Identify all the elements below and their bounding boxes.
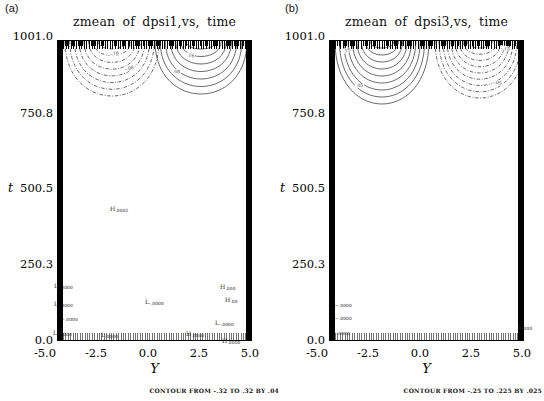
x-axis-label: Y (329, 361, 524, 376)
y-tick-label: 1001.0 (272, 29, 325, 43)
right-wall (246, 40, 252, 341)
figure: (a) zmean of dpsi1,vs, time 1001.0750.85… (0, 0, 544, 401)
bottom-boundary-hatching (335, 333, 518, 340)
right-wall (518, 40, 524, 341)
panel-b-label: (b) (285, 2, 298, 14)
y-tick-label: 0.0 (0, 333, 53, 347)
top-boundary-hatching (335, 41, 518, 49)
x-axis-label: Y (57, 361, 252, 376)
y-tick-label: 750.8 (272, 106, 325, 120)
plot-title-a: zmean of dpsi1,vs, time (47, 14, 262, 29)
panel-b: (b) zmean of dpsi3,vs, time 1001.0750.85… (272, 0, 544, 401)
x-tick-label: 5.0 (230, 346, 270, 360)
contour-range-caption-a: CONTOUR FROM -.32 TO .32 BY .04 (149, 387, 279, 394)
contour-range-caption-b: CONTOUR FROM -.25 TO .225 BY .025 (404, 387, 542, 394)
left-wall (329, 40, 335, 341)
y-tick-label: 750.8 (0, 106, 53, 120)
y-tick-label: 250.3 (272, 257, 325, 271)
x-tick-label: 5.0 (502, 346, 542, 360)
plot-title-b: zmean of dpsi3,vs, time (319, 14, 534, 29)
y-tick-label: 250.3 (0, 257, 53, 271)
x-tick-label: 2.5 (179, 346, 219, 360)
bottom-boundary-hatching (63, 333, 246, 340)
x-tick-label: -5.0 (297, 346, 337, 360)
plot-area-a (57, 40, 252, 341)
y-axis-label: t (280, 180, 285, 195)
x-tick-label: -2.5 (348, 346, 388, 360)
x-tick-label: 0.0 (400, 346, 440, 360)
panel-a-label: (a) (5, 2, 18, 14)
plot-area-b (329, 40, 524, 341)
x-tick-label: 0.0 (128, 346, 168, 360)
top-boundary-hatching (63, 41, 246, 49)
y-axis-label: t (8, 180, 13, 195)
left-wall (57, 40, 63, 341)
x-tick-label: -2.5 (76, 346, 116, 360)
panel-a: (a) zmean of dpsi1,vs, time 1001.0750.85… (0, 0, 272, 401)
x-tick-label: 2.5 (451, 346, 491, 360)
x-tick-label: -5.0 (25, 346, 65, 360)
y-tick-label: 0.0 (272, 333, 325, 347)
y-tick-label: 1001.0 (0, 29, 53, 43)
